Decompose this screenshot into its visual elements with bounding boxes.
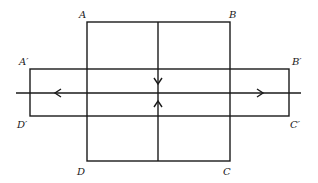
label-d: D	[76, 166, 85, 177]
label-d-prime: D′	[16, 119, 28, 130]
diagram-canvas: A B C D A′ B′ C′ D′	[0, 0, 318, 183]
label-b-prime: B′	[291, 56, 302, 67]
label-a: A	[78, 9, 86, 20]
label-c: C	[223, 166, 231, 177]
label-c-prime: C′	[290, 119, 301, 130]
label-b: B	[228, 9, 236, 20]
label-a-prime: A′	[18, 56, 29, 67]
